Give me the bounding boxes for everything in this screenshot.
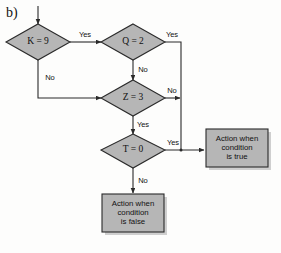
action-node-true[interactable]: Action when condition is true — [206, 129, 271, 170]
decision-node-q-label: Q = 2 — [122, 36, 144, 46]
action-node-true-line1: Action when — [216, 134, 258, 143]
decision-node-k[interactable]: K = 9 — [6, 24, 70, 60]
flowchart-canvas: b) K = 9 Q = 2 — [0, 0, 281, 253]
decision-node-t-label: T = 0 — [123, 144, 144, 154]
action-node-false-line2: condition — [117, 208, 148, 217]
edge-label-t-yes: Yes — [167, 138, 179, 147]
edge-q-yes-trunk — [165, 42, 181, 150]
action-node-false-line3: is false — [121, 217, 145, 226]
edge-label-k-no: No — [45, 73, 55, 82]
action-node-true-line3: is true — [226, 152, 247, 161]
action-node-true-line2: condition — [221, 143, 252, 152]
edge-label-z-yes: Yes — [137, 120, 149, 129]
flowchart-figure: b) K = 9 Q = 2 — [0, 0, 281, 253]
trunk-junction-dot — [180, 149, 183, 152]
edge-label-q-no: No — [138, 65, 148, 74]
edge-label-k-yes: Yes — [79, 30, 91, 39]
action-node-false-line1: Action when — [112, 199, 154, 208]
decision-node-t[interactable]: T = 0 — [101, 134, 165, 168]
decision-node-z-label: Z = 3 — [123, 92, 144, 102]
edge-label-q-yes: Yes — [166, 30, 178, 39]
edge-label-t-no: No — [138, 176, 148, 185]
panel-label: b) — [6, 5, 18, 21]
decision-node-k-label: K = 9 — [27, 36, 49, 46]
action-node-false[interactable]: Action when condition is false — [102, 194, 167, 235]
edge-label-z-no: No — [167, 86, 177, 95]
decision-node-z[interactable]: Z = 3 — [101, 80, 165, 116]
decision-node-q[interactable]: Q = 2 — [101, 24, 165, 60]
